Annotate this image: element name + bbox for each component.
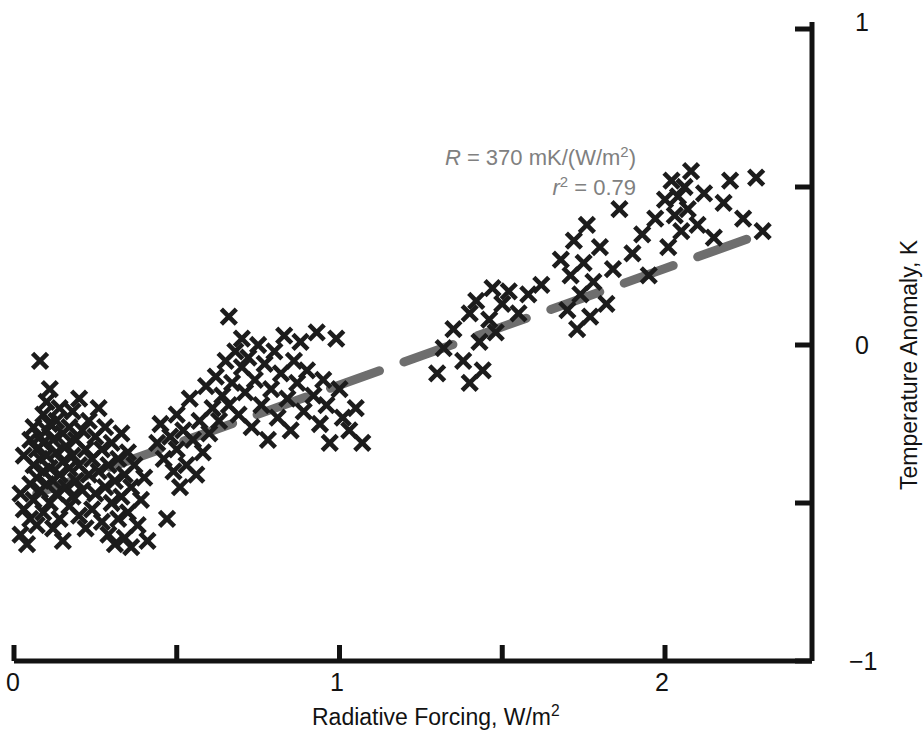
annotation-r-close: ) [629,145,636,170]
y-axis-title: Temperature Anomaly, K [896,240,923,490]
annotation-r2-symbol: r [552,176,559,201]
x-axis-title: Radiative Forcing, W/m2 [312,702,560,731]
regression-annotation: R = 370 mK/(W/m2) r2 = 0.79 [414,142,636,203]
data-point-markers [13,164,770,555]
annotation-r-symbol: R [445,145,461,170]
x-tick-label-1: 1 [330,668,344,697]
annotation-r-exponent: 2 [620,143,628,160]
y-axis-ticks [795,29,812,661]
annotation-line-sensitivity: R = 370 mK/(W/m2) [414,142,636,172]
annotation-r2-exponent: 2 [560,173,568,190]
x-tick-label-2: 2 [655,668,669,697]
y-tick-label-0: 0 [855,331,869,360]
y-tick-label-1: 1 [855,8,869,37]
annotation-r2-value: = 0.79 [568,176,636,201]
x-axis-title-exponent: 2 [551,702,560,719]
x-tick-label-0: 0 [6,668,20,697]
trend-line [37,231,769,493]
y-tick-label-minus-1: −1 [849,647,878,676]
annotation-line-r-squared: r2 = 0.79 [414,172,636,202]
y-axis-title-text: Temperature Anomaly, K [896,240,922,490]
axis-lines [14,22,812,661]
x-axis-title-text: Radiative Forcing, W/m [312,704,551,730]
annotation-r-value: = 370 mK/(W/m [461,145,621,170]
